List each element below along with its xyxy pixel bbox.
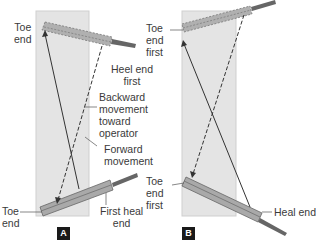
label-toe-end-a-top: Toe end [14,21,32,45]
label-toe-end-first-bottom: Toe end first [146,175,164,211]
label-heel-end-first: Heel end first [111,63,153,87]
label-heal-end: Heal end [274,206,316,218]
label-toe-end-a-bottom: Toe end [2,205,20,229]
panel-badge-a: A [57,227,70,240]
label-forward-movement: Forward movement [104,143,153,167]
panel-badge-b: B [182,227,195,240]
label-toe-end-first-top: Toe end first [146,22,164,58]
label-first-heal-end: First heal end [100,205,143,229]
label-backward-movement: Backward movement toward operator [99,91,148,139]
